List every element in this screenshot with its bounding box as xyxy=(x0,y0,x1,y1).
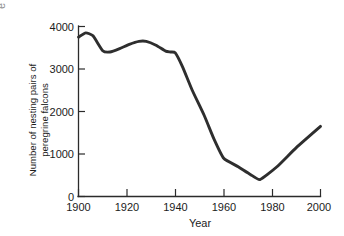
x-axis-title: Year xyxy=(189,217,212,229)
x-tick-label-2000: 2000 xyxy=(307,201,331,213)
y-axis-title-line2: peregrine falcons xyxy=(39,83,50,157)
x-axis-ticks xyxy=(79,189,321,197)
line-chart-svg: 4000 3000 2000 1000 0 1900 1920 1940 196… xyxy=(0,0,344,236)
data-series-line xyxy=(79,33,321,180)
x-tick-label-1900: 1900 xyxy=(66,201,90,213)
x-tick-label-1920: 1920 xyxy=(115,201,139,213)
x-tick-label-1960: 1960 xyxy=(212,201,236,213)
y-axis-ticks xyxy=(79,27,86,197)
y-tick-label-2000: 2000 xyxy=(50,106,74,118)
x-tick-label-1980: 1980 xyxy=(260,201,284,213)
x-tick-label-1940: 1940 xyxy=(163,201,187,213)
y-axis-title-line1: Number of nesting pairs of xyxy=(27,63,38,176)
y-tick-label-1000: 1000 xyxy=(50,148,74,160)
y-tick-label-3000: 3000 xyxy=(50,63,74,75)
y-tick-label-4000: 4000 xyxy=(50,21,74,33)
chart-figure: e 4000 3000 2000 1000 0 1900 xyxy=(0,0,344,236)
